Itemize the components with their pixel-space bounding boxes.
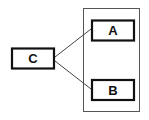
- node-c[interactable]: C: [12, 49, 54, 69]
- node-a-label: A: [108, 23, 118, 38]
- diagram-canvas: C A B: [0, 0, 149, 120]
- node-b-label: B: [108, 83, 117, 98]
- edge-c-to-b: [55, 61, 91, 89]
- node-b[interactable]: B: [92, 80, 134, 100]
- node-c-label: C: [28, 51, 38, 66]
- node-a[interactable]: A: [92, 21, 134, 41]
- edge-c-to-a: [55, 29, 91, 57]
